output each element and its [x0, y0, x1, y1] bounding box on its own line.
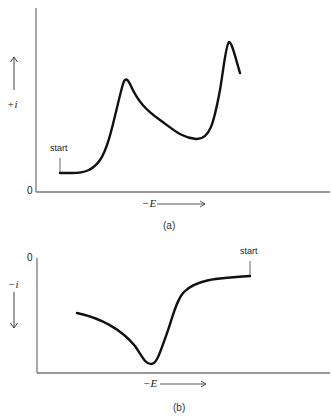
- panel-b-y-axis-label: −i: [8, 279, 18, 290]
- panel-a-axes: [36, 8, 330, 192]
- panel-a-x-arrow-icon: [157, 201, 205, 207]
- panel-a-curve: [60, 42, 240, 173]
- panel-b-origin-label: 0: [27, 253, 33, 263]
- panel-b-caption: (b): [173, 403, 185, 413]
- panel-b-y-arrow-icon: [11, 292, 18, 328]
- panel-b-x-arrow-icon: [160, 381, 206, 387]
- panel-b-axes: [37, 258, 330, 373]
- panel-b-curve: [77, 276, 250, 364]
- panel-b-x-axis-label: −E: [143, 378, 157, 389]
- panel-a-y-arrow-icon: [11, 57, 18, 90]
- panel-a-origin-label: 0: [27, 186, 33, 196]
- panel-a-y-axis-label: +i: [7, 99, 17, 110]
- panel-b-start-label: start: [240, 247, 258, 256]
- diagram-canvas: [0, 0, 331, 419]
- panel-a-x-axis-label: −E: [142, 198, 156, 209]
- panel-a-start-label: start: [50, 144, 68, 153]
- panel-a-caption: (a): [163, 221, 175, 231]
